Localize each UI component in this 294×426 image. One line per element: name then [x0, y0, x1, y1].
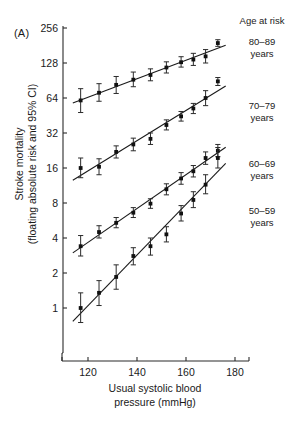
axes: [62, 26, 249, 361]
data-point-group: [114, 218, 119, 228]
data-point-marker: [149, 73, 153, 77]
data-point-group: [203, 175, 208, 194]
data-point-group: [164, 184, 169, 195]
data-point-group: [96, 281, 101, 306]
data-point-marker: [149, 137, 153, 141]
data-point-marker: [191, 198, 195, 202]
data-point-group: [148, 69, 153, 81]
data-point-marker: [179, 177, 183, 181]
data-point-marker: [165, 187, 169, 191]
data-point-marker: [114, 150, 118, 154]
data-point-marker: [149, 202, 153, 206]
data-point-group: [191, 166, 196, 177]
data-point-group: [191, 192, 196, 208]
data-point-marker: [97, 165, 101, 169]
stroke-mortality-figure: (A) Age at risk 80–89 years 70–79 years …: [0, 0, 294, 426]
data-point-marker: [191, 58, 195, 62]
data-point-marker: [131, 78, 135, 82]
data-point-group: [78, 89, 83, 113]
data-point-marker: [131, 211, 135, 215]
data-point-group: [114, 76, 119, 93]
data-point-marker: [165, 123, 169, 127]
data-point-marker: [79, 166, 83, 170]
plot-area: [0, 0, 294, 426]
data-point-marker: [114, 83, 118, 87]
data-point-marker: [179, 60, 183, 64]
fit-line: [73, 163, 226, 321]
data-point-marker: [79, 306, 83, 310]
data-point-marker: [79, 99, 83, 103]
data-point-marker: [149, 244, 153, 248]
data-point-marker: [165, 232, 169, 236]
data-point-group: [78, 236, 83, 256]
data-point-group: [131, 72, 136, 87]
data-point-marker: [97, 230, 101, 234]
data-point-marker: [216, 41, 220, 45]
data-point-group: [203, 91, 208, 106]
data-point-group: [96, 159, 101, 175]
data-point-group: [114, 265, 119, 289]
data-point-marker: [204, 96, 208, 100]
data-point-marker: [204, 54, 208, 58]
data-point-group: [96, 84, 101, 102]
data-point-marker: [131, 143, 135, 147]
data-point-group: [164, 227, 169, 242]
data-point-group: [191, 53, 196, 65]
data-point-marker: [204, 183, 208, 187]
data-point-group: [131, 208, 136, 218]
data-point-marker: [191, 107, 195, 111]
data-point-group: [215, 78, 220, 86]
series-2: [73, 78, 226, 181]
data-point-group: [179, 173, 184, 185]
data-point-marker: [179, 212, 183, 216]
data-point-marker: [97, 291, 101, 295]
data-point-marker: [216, 156, 220, 160]
data-point-marker: [165, 66, 169, 70]
data-point-group: [148, 238, 153, 255]
data-point-marker: [191, 169, 195, 173]
data-point-group: [215, 40, 220, 47]
data-point-group: [164, 62, 169, 73]
fit-line: [73, 147, 226, 253]
data-series: [73, 40, 226, 323]
data-point-marker: [216, 79, 220, 83]
data-point-group: [148, 133, 153, 144]
series-3: [73, 144, 226, 256]
series-4: [73, 148, 226, 323]
data-point-marker: [97, 91, 101, 95]
data-point-marker: [204, 156, 208, 160]
data-point-marker: [131, 254, 135, 258]
data-point-marker: [114, 275, 118, 279]
data-point-marker: [79, 244, 83, 248]
data-point-group: [131, 138, 136, 151]
data-point-marker: [179, 114, 183, 118]
data-point-group: [131, 248, 136, 265]
data-point-group: [78, 293, 83, 323]
data-point-group: [179, 57, 184, 67]
series-1: [73, 40, 226, 113]
data-point-group: [114, 146, 119, 158]
data-point-marker: [114, 221, 118, 225]
